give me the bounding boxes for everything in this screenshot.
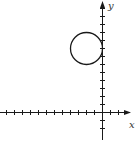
plotted-shapes — [71, 33, 103, 65]
y-axis-label: y — [107, 0, 114, 11]
coordinate-plane: x y — [0, 0, 140, 142]
y-axis-arrow-icon — [100, 1, 105, 8]
circle-curve — [71, 33, 103, 65]
x-axis-arrow-icon — [124, 110, 131, 115]
x-axis-label: x — [129, 119, 135, 130]
tick-marks — [7, 9, 119, 129]
